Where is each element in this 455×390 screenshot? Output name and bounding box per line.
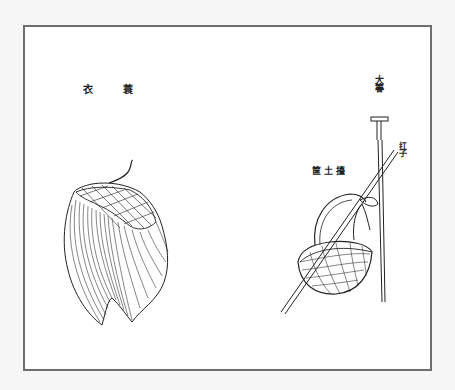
- earth-basket-drawing: [298, 194, 378, 294]
- big-rake-drawing: [371, 117, 388, 302]
- illustration-drawing: [0, 0, 455, 390]
- straw-raincoat-drawing: [64, 160, 168, 325]
